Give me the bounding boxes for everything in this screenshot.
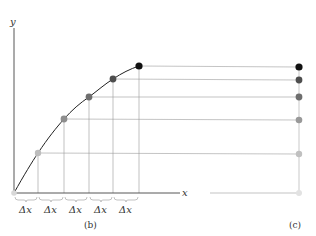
y-axis-label: y bbox=[9, 16, 16, 27]
caption-b: (b) bbox=[84, 220, 97, 230]
delta-label-4: Δx bbox=[93, 204, 107, 215]
point-1 bbox=[35, 150, 41, 156]
point-0 bbox=[11, 190, 17, 196]
right-point-1 bbox=[296, 151, 302, 157]
delta-label-2: Δx bbox=[43, 204, 57, 215]
right-point-4 bbox=[296, 77, 303, 84]
delta-label-5: Δx bbox=[118, 204, 132, 215]
diagram: y x Δx Δx Δx Δx Δx (b) (c) bbox=[0, 0, 316, 236]
delta-label-3: Δx bbox=[68, 204, 82, 215]
point-5 bbox=[135, 62, 142, 69]
delta-labels: Δx Δx Δx Δx Δx bbox=[18, 204, 132, 215]
right-point-5 bbox=[295, 63, 302, 70]
caption-c: (c) bbox=[289, 220, 301, 230]
delta-label-1: Δx bbox=[18, 204, 32, 215]
right-point-2 bbox=[296, 117, 303, 124]
right-point-3 bbox=[296, 94, 303, 101]
x-axis-label: x bbox=[182, 187, 188, 198]
curve bbox=[14, 66, 139, 193]
vertical-gridlines bbox=[38, 66, 139, 193]
point-2 bbox=[61, 116, 68, 123]
right-point-0 bbox=[296, 190, 302, 196]
curve-points bbox=[11, 62, 142, 195]
delta-braces bbox=[15, 197, 138, 202]
point-4 bbox=[110, 76, 117, 83]
point-3 bbox=[86, 94, 93, 101]
projection-lines bbox=[38, 66, 299, 193]
